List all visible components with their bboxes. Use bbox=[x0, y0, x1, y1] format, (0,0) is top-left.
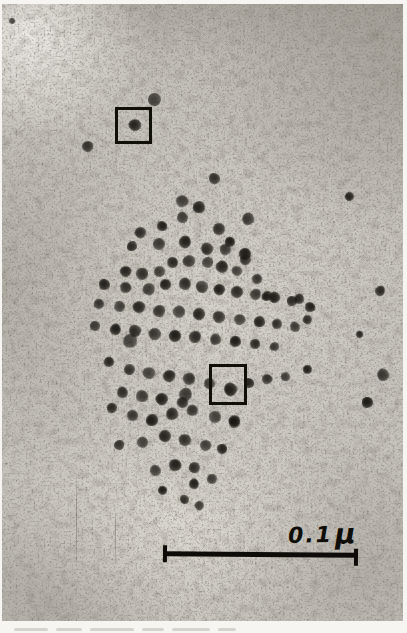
annotation-box bbox=[115, 107, 152, 144]
caption-smudge bbox=[90, 628, 134, 631]
pencil-smudge bbox=[364, 28, 386, 42]
scanned-figure-page: 0.1μ bbox=[0, 0, 407, 633]
scale-bar-label: 0.1μ bbox=[288, 517, 358, 552]
micrograph-photo: 0.1μ bbox=[2, 4, 403, 621]
caption-smudge bbox=[14, 628, 48, 631]
annotation-box bbox=[209, 364, 247, 405]
scale-bar-line bbox=[165, 551, 356, 557]
micron-symbol: μ bbox=[335, 517, 358, 551]
scale-bar-value: 0.1 bbox=[288, 522, 334, 548]
cropped-caption-fragment bbox=[0, 624, 407, 633]
caption-smudge bbox=[142, 628, 164, 631]
scale-bar-right-tick bbox=[354, 549, 358, 566]
caption-smudge bbox=[172, 628, 210, 631]
caption-smudge bbox=[218, 628, 236, 631]
caption-smudge bbox=[56, 628, 82, 631]
